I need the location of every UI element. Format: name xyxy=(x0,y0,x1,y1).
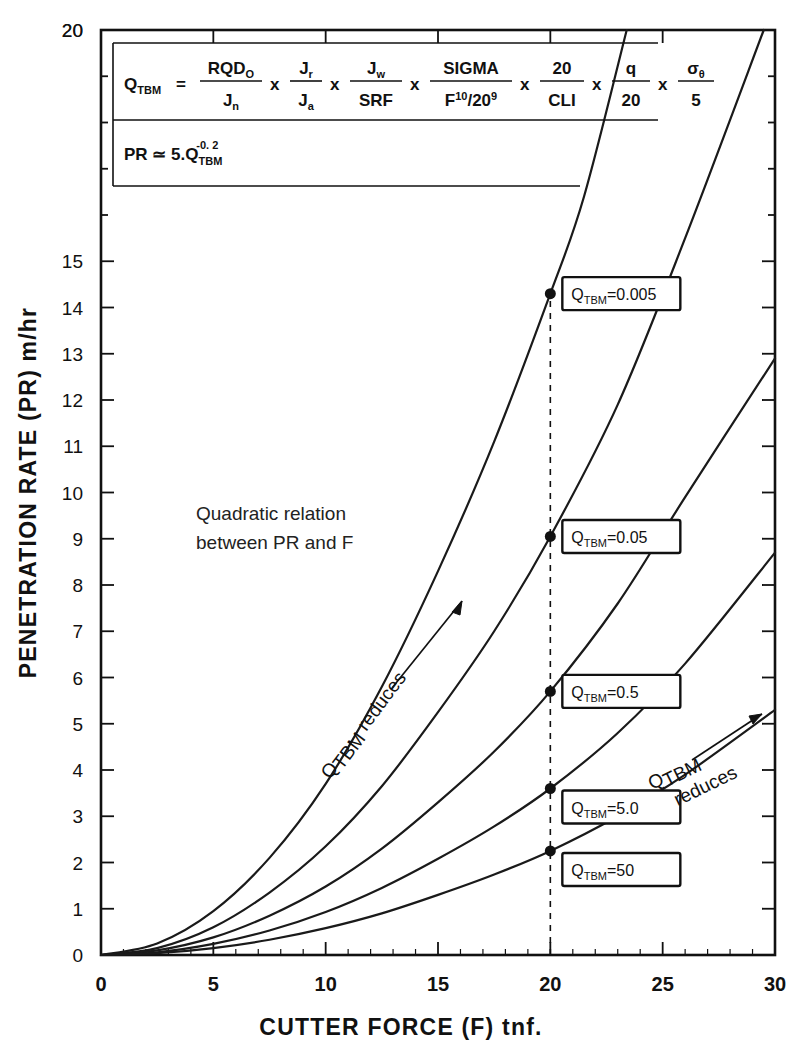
y-tick-label: 6 xyxy=(72,668,83,689)
y-tick-label: 9 xyxy=(72,529,83,550)
y-tick-label: 13 xyxy=(62,344,83,365)
y-tick-label: 8 xyxy=(72,575,83,596)
formula-multiply: x xyxy=(658,75,668,94)
data-point-Q_TBM=0.005 xyxy=(545,288,556,299)
quadratic-note-line1: Quadratic relation xyxy=(196,503,346,524)
chart-canvas: 01234567891011121314152020051015202530CU… xyxy=(0,0,801,1061)
fraction-denominator: 5 xyxy=(691,91,700,110)
fraction-numerator: 20 xyxy=(553,59,572,78)
y-tick-label: 4 xyxy=(72,760,83,781)
y-tick-label: 5 xyxy=(72,714,83,735)
formula-multiply: x xyxy=(592,75,602,94)
y-axis-title: PENETRATION RATE (PR) m/hr xyxy=(15,307,41,679)
y-tick-label: 12 xyxy=(62,390,83,411)
y-tick-label: 2 xyxy=(72,853,83,874)
data-point-Q_TBM=0.05 xyxy=(545,531,556,542)
y-tick-label: 1 xyxy=(72,899,83,920)
fraction-denominator: SRF xyxy=(359,91,393,110)
fraction-denominator: F10/209 xyxy=(445,90,497,110)
y-tick-label: 3 xyxy=(72,806,83,827)
y-tick-label: 15 xyxy=(62,251,83,272)
penetration-rate-chart: 01234567891011121314152020051015202530CU… xyxy=(0,0,801,1061)
y-tick-label: 20 xyxy=(62,20,83,41)
data-point-Q_TBM=5.0 xyxy=(545,783,556,794)
x-tick-label: 30 xyxy=(764,973,786,995)
data-point-Q_TBM=0.5 xyxy=(545,686,556,697)
x-tick-label: 15 xyxy=(427,973,449,995)
formula-multiply: x xyxy=(410,75,420,94)
y-tick-label: 7 xyxy=(72,621,83,642)
formula-multiply: x xyxy=(330,75,340,94)
x-tick-label: 20 xyxy=(539,973,561,995)
y-tick-label: 14 xyxy=(62,298,84,319)
x-tick-label: 0 xyxy=(95,973,106,995)
x-tick-label: 10 xyxy=(315,973,337,995)
fraction-denominator: 20 xyxy=(622,91,641,110)
formula-multiply: x xyxy=(520,75,530,94)
fraction-numerator: SIGMA xyxy=(443,59,499,78)
data-point-Q_TBM=50 xyxy=(545,845,556,856)
fraction-denominator: CLI xyxy=(548,91,575,110)
quadratic-note-line2: between PR and F xyxy=(196,532,353,553)
formula-eq: = xyxy=(176,75,186,94)
y-tick-label: 0 xyxy=(72,945,83,966)
x-tick-label: 5 xyxy=(208,973,219,995)
x-axis-title: CUTTER FORCE (F) tnf. xyxy=(259,1014,542,1040)
y-tick-label: 11 xyxy=(63,436,83,457)
formula-multiply: x xyxy=(270,75,280,94)
y-tick-label: 10 xyxy=(62,483,83,504)
fraction-numerator: q xyxy=(626,59,636,78)
x-tick-label: 25 xyxy=(652,973,674,995)
